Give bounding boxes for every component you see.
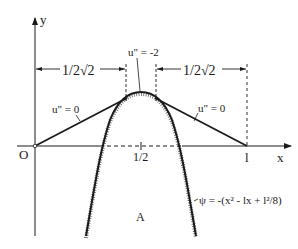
origin-label: O <box>19 147 28 162</box>
right-segment-label: u" = 0 <box>198 102 226 114</box>
x-axis-label: x <box>277 150 284 165</box>
y-axis-label: y <box>40 12 47 27</box>
x-axis: x O 1/2 l <box>17 142 291 165</box>
midpoint-label: 1/2 <box>133 150 148 164</box>
obstacle-formula: ψ = -(x² - lx + l²/8) <box>199 194 282 207</box>
left-segment-label: u" = 0 <box>52 103 80 115</box>
right-dimension-label: 1/2√2 <box>183 63 216 78</box>
diagram-canvas: y x O 1/2 l 1/2√2 1/2√2 <box>0 0 298 249</box>
left-dimension-label: 1/2√2 <box>62 63 95 78</box>
apex-label: u" = -2 <box>128 46 159 58</box>
end-label: l <box>245 150 249 165</box>
y-axis: y <box>35 12 47 236</box>
region-label: A <box>136 210 145 224</box>
